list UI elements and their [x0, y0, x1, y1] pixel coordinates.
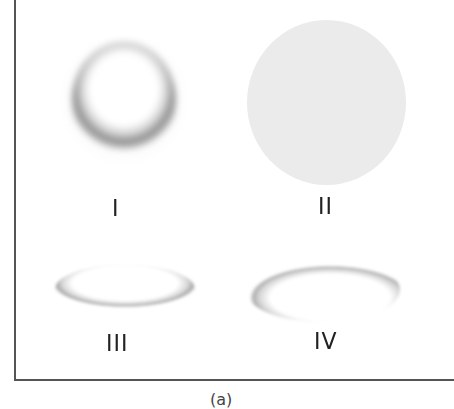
flat-disc-II	[247, 20, 406, 185]
shaded-sphere-I	[72, 42, 176, 160]
label-II: II	[318, 193, 333, 219]
figure-caption: (a)	[210, 390, 232, 409]
label-I: I	[112, 195, 120, 221]
recessed-ellipse-IV	[245, 258, 400, 322]
label-IV: IV	[314, 328, 338, 354]
raised-ellipse-III	[55, 265, 195, 313]
label-III: III	[106, 330, 128, 356]
